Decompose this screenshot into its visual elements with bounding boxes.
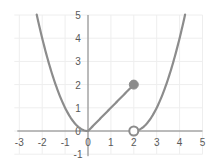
x-tick-label: 1 [108,137,114,148]
x-tick-label: -1 [61,137,70,148]
y-tick-label: 2 [75,80,81,91]
y-tick-label: 1 [75,103,81,114]
piecewise-function-chart: -3-2-1012345-1012345 [0,0,214,165]
y-tick-label: -1 [74,149,83,160]
x-tick-label: 0 [85,137,91,148]
closed-dot-marker [129,80,138,89]
x-tick-label: -2 [38,137,47,148]
open-dot-marker [129,127,138,136]
y-tick-label: 5 [75,10,81,21]
x-tick-label: 3 [154,137,160,148]
curve-right-parabola [134,15,185,131]
x-tick-label: 5 [200,137,206,148]
x-tick-label: -3 [15,137,24,148]
y-tick-label: 4 [75,33,81,44]
axes [17,15,202,156]
y-tick-label: 3 [75,56,81,67]
x-tick-label: 2 [131,137,137,148]
x-tick-label: 4 [177,137,183,148]
